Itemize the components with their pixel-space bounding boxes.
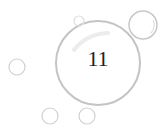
bubble-left [9, 59, 25, 75]
bubble-top-right-highlight [151, 20, 154, 33]
bubble-bottom-left [42, 108, 58, 124]
bubble-bottom-right [79, 108, 95, 124]
badge-number: 11 [56, 46, 140, 72]
bubble-top-right [129, 11, 157, 39]
